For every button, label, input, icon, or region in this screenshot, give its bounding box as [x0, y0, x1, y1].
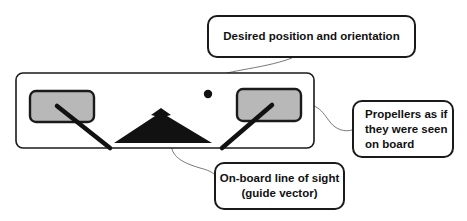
left-propeller — [30, 91, 94, 122]
callout-line-of-sight: On-board line of sight (guide vector) — [214, 162, 345, 210]
callout-propellers-line-2: they were seen — [365, 122, 447, 137]
callout-los-line-1: On-board line of sight — [220, 171, 339, 186]
callout-propellers: Propellers as if they were seen on board — [352, 100, 454, 158]
target-dot — [204, 90, 212, 98]
callout-los-line-2: (guide vector) — [220, 186, 339, 201]
callout-propellers-line-3: on board — [365, 137, 447, 152]
callout-desired-position: Desired position and orientation — [207, 15, 416, 58]
callout-desired-text: Desired position and orientation — [223, 29, 399, 44]
callout-propellers-line-1: Propellers as if — [365, 107, 447, 122]
